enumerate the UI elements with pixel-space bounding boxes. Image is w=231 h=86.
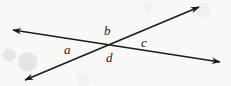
intersecting-lines-drawing: [0, 0, 231, 86]
angle-label-c: c: [141, 36, 147, 49]
line-ascending: [25, 7, 199, 80]
angle-label-a: a: [64, 43, 71, 56]
angle-label-d: d: [106, 51, 113, 64]
angle-diagram-figure: a b c d: [0, 0, 231, 86]
line-descending: [13, 30, 220, 62]
angle-label-b: b: [104, 24, 111, 37]
